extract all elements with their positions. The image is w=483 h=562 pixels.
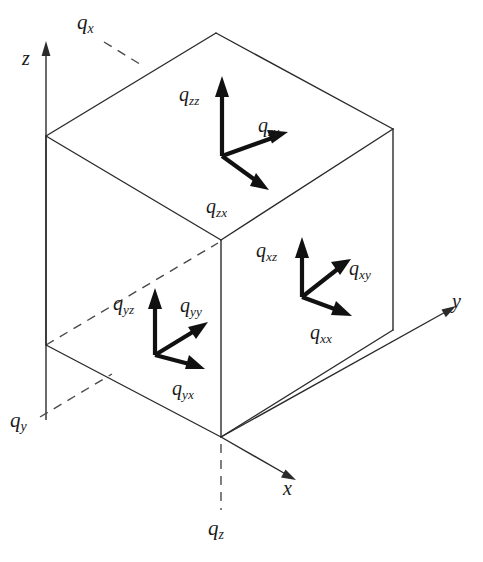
vector-label-qyz-base: q	[113, 292, 123, 314]
vector-label-qxz-sub: xz	[266, 249, 277, 264]
vector-line-qzy	[222, 137, 275, 156]
axis-label-x: x	[283, 478, 292, 498]
vector-arrowhead-qxx	[331, 301, 352, 316]
vector-arrowhead-qzz	[215, 76, 229, 97]
face-label-qy: qy	[10, 410, 27, 434]
vector-label-qzy: qzy	[258, 115, 279, 138]
vector-label-qxy: qxy	[349, 258, 371, 281]
axis-label-y: y	[452, 291, 461, 311]
vector-label-qyz-sub: yz	[123, 302, 134, 317]
axis-label-z: z	[22, 48, 30, 68]
vector-arrowhead-qxz	[295, 237, 309, 258]
vector-line-qzx	[222, 156, 258, 182]
face-label-qz: qz	[208, 518, 224, 542]
vector-label-qyz: qyz	[113, 293, 134, 316]
leader-line-qx	[104, 42, 143, 66]
vector-arrowhead-qyy	[188, 322, 208, 339]
vector-label-qyx: qyx	[172, 378, 194, 401]
coordinate-axes	[42, 41, 456, 480]
face-label-qy-sub: y	[21, 419, 27, 434]
cube-edge-top-left-front	[46, 136, 221, 240]
vector-label-qxz-base: q	[256, 239, 266, 261]
vector-label-qyx-base: q	[172, 377, 182, 399]
vector-label-qyy: qyy	[180, 295, 202, 318]
vector-label-qzx-base: q	[206, 195, 216, 217]
vector-label-qzx: qzx	[206, 196, 227, 219]
vector-label-qxx-sub: xx	[320, 331, 332, 346]
vector-label-qxx-base: q	[310, 321, 320, 343]
axis-line-x	[221, 437, 289, 476]
vector-label-qxy-base: q	[349, 257, 359, 279]
face-label-qz-sub: z	[219, 527, 225, 542]
triad-right-face	[295, 237, 352, 316]
vector-arrowhead-qyx	[185, 355, 205, 369]
vector-label-qzy-sub: zy	[268, 124, 279, 139]
vector-label-qxz: qxz	[256, 240, 277, 263]
vector-label-qzz: qzz	[179, 84, 200, 107]
vector-label-qyx-sub: yx	[182, 387, 194, 402]
vector-label-qyy-base: q	[180, 294, 190, 316]
cube-edge-top-apex-right	[216, 33, 393, 129]
axis-arrowhead-z	[42, 41, 51, 56]
face-label-qx-sub: x	[88, 21, 94, 36]
vector-label-qzz-sub: zz	[189, 93, 200, 108]
figure-canvas	[0, 0, 483, 562]
face-label-qz-base: q	[208, 516, 219, 540]
leader-line-qy	[40, 374, 112, 417]
axis-line-y	[221, 310, 449, 437]
cube-edge-bottom-right-front	[221, 330, 393, 437]
vector-label-qzx-sub: zx	[216, 205, 227, 220]
vector-label-qzy-base: q	[258, 114, 268, 136]
vector-label-qyy-sub: yy	[190, 304, 202, 319]
vector-line-qxy	[302, 268, 339, 297]
cube-edge-bottom-left-front	[46, 345, 221, 437]
vector-line-qyy	[155, 330, 196, 355]
vector-arrowhead-qyz	[148, 288, 162, 309]
face-label-leaders	[40, 42, 221, 510]
tensor-cube-figure: z x y qx qy qz qzz qzy qzx qyz qyy qyx q…	[0, 0, 483, 562]
face-label-qx: qx	[77, 12, 94, 36]
vector-arrowhead-qzx	[250, 173, 269, 190]
vector-label-qxx: qxx	[310, 322, 332, 345]
vector-label-qxy-sub: xy	[359, 267, 371, 282]
face-label-qx-base: q	[77, 10, 88, 34]
face-label-qy-base: q	[10, 408, 21, 432]
vector-label-qzz-base: q	[179, 83, 189, 105]
